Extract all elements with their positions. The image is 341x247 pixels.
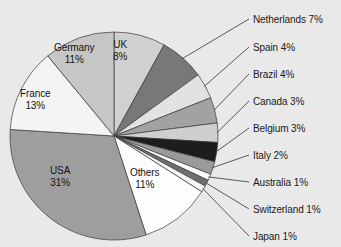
slice-label-value: 11% bbox=[130, 179, 159, 191]
slice-label-value: 31% bbox=[50, 177, 70, 189]
slice-label-france: France13% bbox=[20, 88, 51, 111]
leader-line-canada bbox=[217, 101, 249, 133]
slice-label-uk: UK8% bbox=[113, 39, 127, 62]
callout-label-brazil: Brazil 4% bbox=[253, 69, 294, 80]
leader-line-italy bbox=[212, 155, 249, 168]
callout-label-japan: Japan 1% bbox=[253, 231, 297, 242]
pie-chart: Germany11%UK8%France13%USA31%Others11%Ne… bbox=[0, 0, 341, 247]
callout-label-italy: Italy 2% bbox=[253, 150, 288, 161]
callout-label-belgium: Belgium 3% bbox=[253, 123, 305, 134]
slice-label-name: UK bbox=[113, 39, 127, 51]
leader-line-belgium bbox=[216, 128, 249, 152]
callout-label-spain: Spain 4% bbox=[253, 42, 295, 53]
slice-label-value: 11% bbox=[54, 54, 94, 66]
leader-line-australia bbox=[209, 177, 249, 182]
callout-label-switzerland: Switzerland 1% bbox=[253, 204, 321, 215]
leader-line-brazil bbox=[214, 74, 249, 110]
slice-label-germany: Germany11% bbox=[54, 42, 94, 65]
leader-line-netherlands bbox=[182, 19, 249, 59]
leader-line-switzerland bbox=[206, 183, 249, 209]
slice-label-name: Others bbox=[130, 167, 159, 179]
leader-line-japan bbox=[203, 188, 249, 236]
slice-label-others: Others11% bbox=[130, 167, 159, 190]
slice-label-name: France bbox=[20, 88, 51, 100]
slice-label-value: 13% bbox=[20, 100, 51, 112]
callout-label-australia: Australia 1% bbox=[253, 177, 308, 188]
slice-label-name: USA bbox=[50, 165, 70, 177]
callout-label-canada: Canada 3% bbox=[253, 96, 304, 107]
slice-label-name: Germany bbox=[54, 42, 94, 54]
slice-label-usa: USA31% bbox=[50, 165, 70, 188]
slice-label-value: 8% bbox=[113, 51, 127, 63]
callout-label-netherlands: Netherlands 7% bbox=[253, 14, 323, 25]
